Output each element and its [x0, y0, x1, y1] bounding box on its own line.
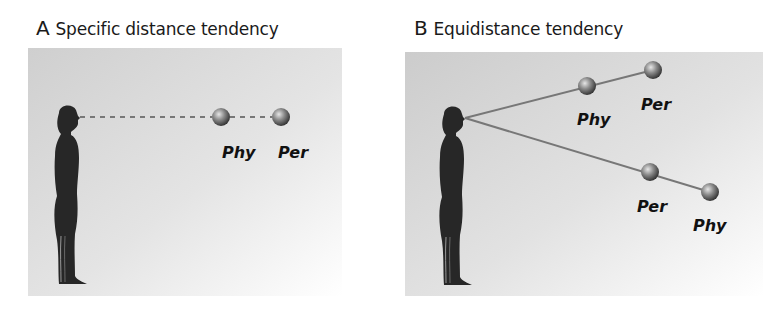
label-b-upper-phy: Phy — [577, 110, 611, 129]
sphere-a-per — [272, 108, 290, 126]
panel-a: Phy Per — [28, 48, 342, 296]
sphere-b-upper-per — [644, 61, 662, 79]
sphere-b-lower-phy — [701, 183, 719, 201]
label-a-per: Per — [278, 143, 309, 162]
label-b-upper-per: Per — [641, 95, 672, 114]
label-a-phy: Phy — [222, 143, 256, 162]
sphere-b-upper-phy — [578, 77, 596, 95]
label-b-lower-phy: Phy — [693, 216, 727, 235]
panel-b: Phy Per Per Phy — [405, 52, 763, 296]
sphere-b-lower-per — [641, 163, 659, 181]
diagram-canvas: Phy Per Phy Per Per Phy — [0, 0, 773, 311]
sphere-a-phy — [212, 108, 230, 126]
label-b-lower-per: Per — [637, 197, 668, 216]
